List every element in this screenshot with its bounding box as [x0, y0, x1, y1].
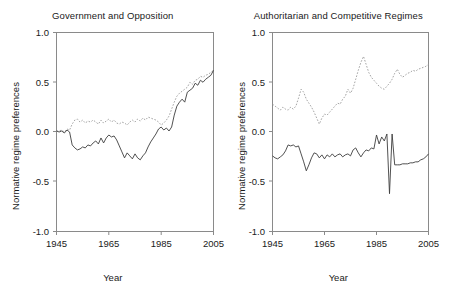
chart-panel-government-opposition: Government and Opposition Normative regi…	[0, 0, 226, 291]
y-tick-label: 0.5	[251, 77, 264, 88]
series-line-government	[57, 70, 214, 160]
plot-frame	[57, 33, 214, 232]
y-ticks: 1.0 0.5 0.0 -0.5 -1.0	[248, 27, 272, 237]
y-tick-label: -1.0	[33, 226, 49, 237]
series-line-opposition	[57, 70, 214, 132]
y-tick-label: 1.0	[251, 27, 264, 38]
y-tick-label: 0.5	[36, 77, 49, 88]
chart-panel-authoritarian-competitive: Authoritarian and Competitive Regimes No…	[226, 0, 451, 291]
x-tick-label: 1965	[313, 238, 334, 249]
x-tick-label: 1945	[46, 238, 67, 249]
x-tick-label: 2005	[417, 238, 438, 249]
series-line-authoritarian	[272, 134, 428, 194]
x-tick-label: 1965	[98, 238, 119, 249]
x-ticks: 1945 1965 1985 2005	[46, 232, 224, 250]
figure-root: Government and Opposition Normative regi…	[0, 0, 451, 291]
y-tick-label: -0.5	[33, 176, 49, 187]
x-tick-label: 1985	[151, 238, 172, 249]
plot-frame	[272, 33, 428, 232]
x-ticks: 1945 1965 1985 2005	[261, 232, 438, 250]
plot-area-left: 1.0 0.5 0.0 -0.5 -1.0 1945 1965 1985 200…	[0, 0, 226, 291]
y-ticks: 1.0 0.5 0.0 -0.5 -1.0	[33, 27, 57, 237]
y-tick-label: 1.0	[36, 27, 49, 38]
y-tick-label: 0.0	[251, 126, 264, 137]
y-tick-label: -0.5	[248, 176, 264, 187]
y-tick-label: 0.0	[36, 126, 49, 137]
series-line-competitive	[272, 56, 428, 124]
x-tick-label: 1945	[261, 238, 282, 249]
y-tick-label: -1.0	[248, 226, 264, 237]
x-tick-label: 2005	[203, 238, 224, 249]
plot-area-right: 1.0 0.5 0.0 -0.5 -1.0 1945 1965 1985 200…	[226, 0, 451, 291]
x-tick-label: 1985	[365, 238, 386, 249]
